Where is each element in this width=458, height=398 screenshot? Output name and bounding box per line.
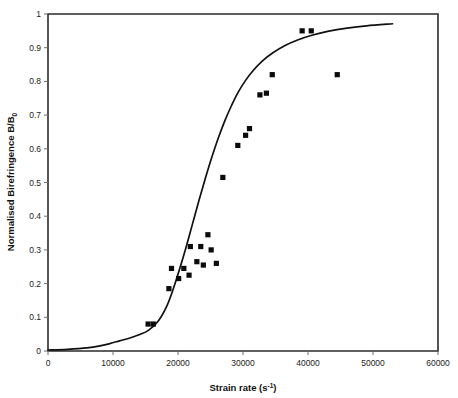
data-point-marker bbox=[151, 321, 156, 326]
x-tick-label: 40000 bbox=[296, 358, 320, 368]
data-point-marker bbox=[270, 72, 275, 77]
y-tick-label: 0.2 bbox=[29, 279, 41, 289]
x-tick-label: 30000 bbox=[231, 358, 255, 368]
y-tick-label: 0 bbox=[36, 346, 41, 356]
y-tick-label: 0.1 bbox=[29, 312, 41, 322]
y-tick-label: 0.7 bbox=[29, 110, 41, 120]
data-point-marker bbox=[146, 321, 151, 326]
data-point-marker bbox=[300, 28, 305, 33]
chart-svg: 00.10.20.30.40.50.60.70.80.91 0100002000… bbox=[0, 0, 458, 398]
data-point-marker bbox=[335, 72, 340, 77]
x-tick-label: 60000 bbox=[426, 358, 450, 368]
data-point-marker bbox=[201, 262, 206, 267]
model-fit-curve bbox=[48, 24, 393, 350]
data-point-marker bbox=[169, 266, 174, 271]
data-point-marker bbox=[198, 244, 203, 249]
y-tick-label: 0.5 bbox=[29, 178, 41, 188]
data-point-marker bbox=[181, 266, 186, 271]
data-point-marker bbox=[235, 143, 240, 148]
data-point-marker bbox=[264, 91, 269, 96]
data-point-marker bbox=[194, 259, 199, 264]
data-point-marker bbox=[205, 232, 210, 237]
x-axis-title: Strain rate (s-1) bbox=[209, 382, 276, 394]
y-tick-label: 0.9 bbox=[29, 43, 41, 53]
data-points-group bbox=[146, 28, 340, 326]
y-tick-label: 0.3 bbox=[29, 245, 41, 255]
chart-figure: 00.10.20.30.40.50.60.70.80.91 0100002000… bbox=[0, 0, 458, 398]
data-point-marker bbox=[186, 273, 191, 278]
y-tick-label: 0.6 bbox=[29, 144, 41, 154]
x-tick-label: 10000 bbox=[101, 358, 125, 368]
y-tick-label: 0.4 bbox=[29, 211, 41, 221]
fit-curve-group bbox=[48, 24, 393, 350]
y-axis-title: Normalised Birefringence B/B0 bbox=[5, 113, 18, 252]
data-point-marker bbox=[309, 28, 314, 33]
data-point-marker bbox=[257, 92, 262, 97]
data-point-marker bbox=[166, 286, 171, 291]
y-tick-label: 0.8 bbox=[29, 76, 41, 86]
x-tick-label: 20000 bbox=[166, 358, 190, 368]
data-point-marker bbox=[220, 175, 225, 180]
y-tick-label: 1 bbox=[36, 9, 41, 19]
data-point-marker bbox=[247, 126, 252, 131]
axis-frame bbox=[48, 14, 438, 351]
x-tick-label: 0 bbox=[46, 358, 51, 368]
x-tick-label: 50000 bbox=[361, 358, 385, 368]
x-axis-ticks: 0100002000030000400005000060000 bbox=[46, 351, 450, 368]
data-point-marker bbox=[176, 276, 181, 281]
plot-frame bbox=[48, 14, 438, 351]
data-point-marker bbox=[214, 261, 219, 266]
y-axis-ticks: 00.10.20.30.40.50.60.70.80.91 bbox=[29, 9, 48, 356]
data-point-marker bbox=[243, 133, 248, 138]
data-point-marker bbox=[188, 244, 193, 249]
data-point-marker bbox=[209, 247, 214, 252]
